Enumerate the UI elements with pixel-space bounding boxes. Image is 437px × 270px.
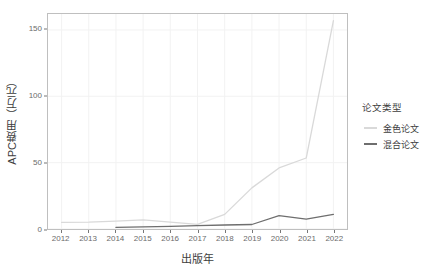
x-tick-label: 2021 <box>298 235 316 243</box>
x-tick-mark <box>334 230 335 233</box>
x-tick-label: 2017 <box>189 235 207 243</box>
x-tick-mark <box>61 230 62 233</box>
x-tick-mark <box>307 230 308 233</box>
x-tick-mark <box>143 230 144 233</box>
x-tick-label: 2013 <box>79 235 97 243</box>
legend-title: 论文类型 <box>362 100 437 114</box>
x-tick-label: 2012 <box>52 235 70 243</box>
x-axis-title-text: 出版年 <box>181 253 214 265</box>
x-tick-label: 2022 <box>325 235 343 243</box>
x-tick-mark <box>280 230 281 233</box>
legend: 论文类型 金色论文混合论文 <box>362 100 437 152</box>
x-tick-label: 2016 <box>161 235 179 243</box>
legend-item-label: 混合论文 <box>383 138 419 151</box>
x-tick-label: 2020 <box>271 235 289 243</box>
y-tick-label: 0 <box>20 226 42 234</box>
series-lines <box>48 14 347 229</box>
x-tick-mark <box>88 230 89 233</box>
x-tick-mark <box>198 230 199 233</box>
y-axis-ticks: 050100150 <box>20 0 42 270</box>
x-tick-mark <box>115 230 116 233</box>
x-tick-mark <box>170 230 171 233</box>
legend-items: 金色论文混合论文 <box>362 120 437 152</box>
x-tick-label: 2014 <box>107 235 125 243</box>
legend-item[interactable]: 金色论文 <box>362 120 437 136</box>
x-tick-label: 2019 <box>243 235 261 243</box>
y-tick-label: 100 <box>20 92 42 100</box>
legend-line-icon <box>362 137 378 151</box>
x-tick-label: 2015 <box>134 235 152 243</box>
series-line-0 <box>62 21 334 225</box>
y-axis-title-text: APC费用（万元） <box>4 76 20 165</box>
legend-item[interactable]: 混合论文 <box>362 136 437 152</box>
chart-container: APC费用（万元） 050100150 20122013201420152016… <box>0 0 437 270</box>
x-tick-mark <box>252 230 253 233</box>
x-axis-title: 出版年 <box>47 250 348 266</box>
legend-line-icon <box>362 121 378 135</box>
plot-panel <box>47 13 348 230</box>
x-tick-mark <box>225 230 226 233</box>
legend-item-label: 金色论文 <box>383 122 419 135</box>
x-tick-label: 2018 <box>216 235 234 243</box>
y-tick-label: 150 <box>20 25 42 33</box>
y-tick-label: 50 <box>20 159 42 167</box>
